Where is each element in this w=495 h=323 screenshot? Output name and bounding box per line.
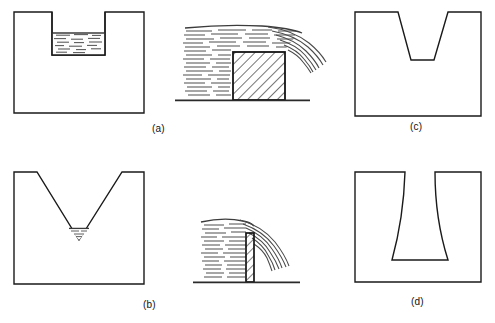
trapezoidal-notch-outline xyxy=(355,12,481,116)
notch-types-figure xyxy=(0,0,495,323)
water-surface-line xyxy=(185,25,302,33)
rectangular-notch-outline xyxy=(14,12,144,113)
caption-d: (d) xyxy=(411,296,424,307)
panel-trapezoidal-notch xyxy=(355,12,481,116)
caption-b: (b) xyxy=(143,299,156,310)
rectangular-notch-liquid xyxy=(53,33,105,55)
panel-rectangular-notch xyxy=(14,12,144,113)
caption-c: (c) xyxy=(410,121,422,132)
weir-block-hatch xyxy=(233,52,285,100)
weir-plate-hatch xyxy=(246,233,254,282)
figure-root: (a) (b) (c) (d) xyxy=(0,0,495,323)
caption-a: (a) xyxy=(152,123,165,134)
panel-broad-crested-weir xyxy=(175,25,326,100)
panel-curved-sided-notch xyxy=(355,172,481,282)
upstream-water-hatch-2 xyxy=(201,224,246,277)
curved-notch-outline xyxy=(355,172,481,282)
panel-vee-notch xyxy=(14,172,144,284)
panel-sharp-crested-weir xyxy=(193,219,300,282)
